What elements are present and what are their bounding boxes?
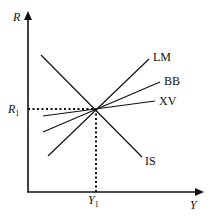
r1-label-sub: 1 <box>15 109 19 118</box>
y1-label-sub: 1 <box>95 200 99 209</box>
x-axis-arrow-icon <box>195 188 204 196</box>
lm-curve <box>48 59 149 156</box>
is-curve <box>41 55 142 157</box>
curves <box>41 55 160 157</box>
is-label: IS <box>145 154 156 168</box>
y-axis-arrow-icon <box>24 11 32 20</box>
bb-label: BB <box>164 74 180 88</box>
diagram-canvas: R Y R1 Y1 LM BB XV IS <box>0 0 214 218</box>
axes <box>24 11 204 196</box>
r1-label: R1 <box>7 102 19 118</box>
lm-label: LM <box>153 50 171 64</box>
x-axis-label: Y <box>190 198 198 212</box>
xv-label: XV <box>159 94 177 108</box>
y-axis-label: R <box>12 10 21 24</box>
y1-label: Y1 <box>88 193 99 209</box>
bb-curve <box>43 82 160 132</box>
